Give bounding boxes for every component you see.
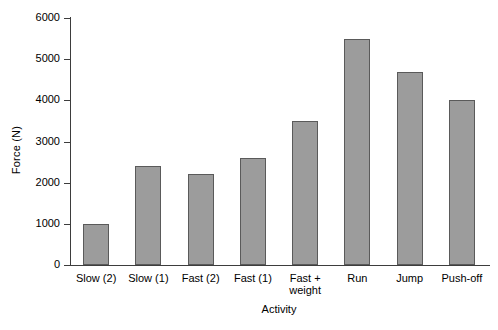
x-axis-tick-slot: Fast (2) <box>175 265 227 325</box>
x-axis-tick-slot: Fast (1) <box>227 265 279 325</box>
x-axis-tick-slot: Fast + weight <box>279 265 331 325</box>
x-axis-tick-label: Push-off <box>430 272 494 284</box>
bar[interactable] <box>240 158 266 265</box>
bar-chart: Force (N) 0100020003000400050006000 Slow… <box>0 0 498 330</box>
y-axis-tick-label: 3000 <box>36 135 60 147</box>
y-axis-title: Force (N) <box>10 100 26 200</box>
bar[interactable] <box>83 224 109 265</box>
y-axis-tick-label: 2000 <box>36 176 60 188</box>
y-axis-tick-label: 0 <box>54 258 60 270</box>
bars-layer <box>70 18 488 265</box>
y-axis-tick-label: 1000 <box>36 217 60 229</box>
bar[interactable] <box>449 100 475 265</box>
x-axis-title: Activity <box>70 303 488 315</box>
bar[interactable] <box>135 166 161 265</box>
x-axis-tick-slot: Slow (1) <box>122 265 174 325</box>
x-axis-tick-slot: Slow (2) <box>70 265 122 325</box>
bar-slot <box>384 18 436 265</box>
bar-slot <box>331 18 383 265</box>
bar[interactable] <box>344 39 370 265</box>
bar-slot <box>227 18 279 265</box>
y-axis-tick-label: 4000 <box>36 93 60 105</box>
x-axis-tick-slot: Run <box>331 265 383 325</box>
x-axis-ticks: Slow (2)Slow (1)Fast (2)Fast (1)Fast + w… <box>70 265 488 325</box>
x-axis-tick-slot: Push-off <box>436 265 488 325</box>
bar-slot <box>279 18 331 265</box>
bar-slot <box>436 18 488 265</box>
x-axis-tick-slot: Jump <box>384 265 436 325</box>
bar-slot <box>175 18 227 265</box>
bar[interactable] <box>292 121 318 265</box>
bar[interactable] <box>397 72 423 265</box>
bar-slot <box>70 18 122 265</box>
bar[interactable] <box>188 174 214 265</box>
plot-area: 0100020003000400050006000 <box>70 18 488 265</box>
y-axis-tick-label: 6000 <box>36 11 60 23</box>
bar-slot <box>122 18 174 265</box>
y-axis-tick-label: 5000 <box>36 52 60 64</box>
